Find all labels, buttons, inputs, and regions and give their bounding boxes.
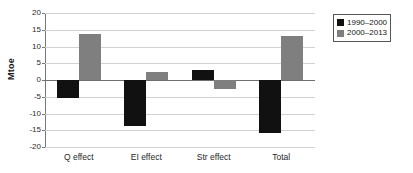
gray-square-icon [337,30,344,37]
y-axis-tick-label: 0 [21,76,41,84]
legend-item-label: 1990–2000 [347,19,387,27]
bar [192,70,214,80]
y-axis-tick-mark [42,130,45,131]
bar-chart: Mtoe 20151050-5-10-15-20 Q effectEI effe… [0,0,413,173]
y-axis-tick-mark [42,13,45,14]
y-axis-tick-mark [42,80,45,81]
x-axis-tick-label: Total [241,152,321,162]
y-axis-tick-label: -20 [21,143,41,151]
y-axis-tick-label: -10 [21,110,41,118]
y-axis-tick-mark [42,63,45,64]
bar [79,34,101,80]
gridline [45,147,315,148]
y-axis-tick-mark [42,30,45,31]
bar [146,72,168,80]
y-axis-tick-labels: 20151050-5-10-15-20 [19,0,41,173]
gridline [45,13,315,14]
y-axis-tick-mark [42,47,45,48]
bar [281,36,303,80]
plot-area [45,13,315,147]
legend-item-label: 2000–2013 [347,29,387,37]
y-axis-tick-mark [42,97,45,98]
y-axis-title: Mtoe [6,47,16,91]
legend-item-0[interactable]: 1990–2000 [337,18,387,28]
y-axis-tick-mark [42,147,45,148]
y-axis-tick-mark [42,114,45,115]
chart-legend: 1990–2000 2000–2013 [333,14,391,42]
y-axis-tick-label: -15 [21,126,41,134]
y-axis-tick-label: -5 [21,93,41,101]
y-axis-tick-label: 5 [21,59,41,67]
y-axis-tick-label: 10 [21,43,41,51]
y-axis-tick-label: 15 [21,26,41,34]
bar [259,80,281,133]
legend-item-1[interactable]: 2000–2013 [337,28,387,38]
bar [214,80,236,89]
y-axis-tick-label: 20 [21,9,41,17]
gridline [45,30,315,31]
black-square-icon [337,19,344,26]
bar [57,80,79,98]
bar [124,80,146,126]
